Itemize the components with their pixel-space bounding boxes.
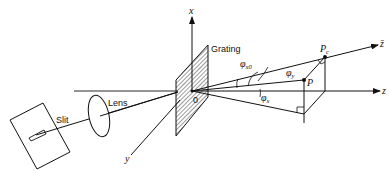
origin-point <box>191 90 194 93</box>
x-axis-label: x <box>188 5 194 16</box>
phi-x-label: φx <box>261 92 270 104</box>
grating-label: Grating <box>211 44 241 54</box>
z-axis-label: z <box>381 85 386 96</box>
point-p-label: P <box>306 77 313 88</box>
y-axis-label: y <box>124 153 130 164</box>
phi-y-label: φy <box>286 67 295 79</box>
lens-label: Lens <box>108 98 128 108</box>
grating-diffraction-diagram: Slit Lens Grating 0 x y z z̄ P Pc φx0 φy… <box>0 0 389 181</box>
origin-label: 0 <box>193 95 198 105</box>
point-pc <box>323 55 327 59</box>
y-axis <box>131 100 180 155</box>
slit-plate <box>10 103 70 169</box>
z-bar-axis-label: z̄ <box>379 38 384 49</box>
point-p <box>302 78 306 82</box>
slit-label: Slit <box>56 115 69 125</box>
point-pc-label: Pc <box>319 43 329 55</box>
phi-x0-label: φx0 <box>240 58 252 70</box>
